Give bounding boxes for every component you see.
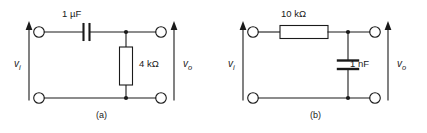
- circuit-b: 10 kΩ 1 nF vi vo (b): [214, 0, 427, 133]
- terminal-top-left-b: [248, 27, 259, 38]
- output-voltage-arrow-b: [385, 21, 392, 100]
- terminal-bottom-right-a: [156, 93, 167, 104]
- caption-b: (b): [310, 110, 321, 120]
- resistor-value-label-a: 4 kΩ: [139, 59, 159, 69]
- caption-a: (a): [96, 110, 107, 120]
- input-voltage-arrow-b: [240, 21, 247, 100]
- terminal-bottom-left-b: [248, 93, 259, 104]
- junction-dot-top-a: [124, 30, 128, 34]
- input-voltage-label-b: vi: [228, 59, 235, 73]
- junction-dot-bottom-a: [124, 96, 128, 100]
- output-voltage-arrow-a: [171, 21, 178, 100]
- terminal-bottom-left-a: [34, 93, 45, 104]
- output-voltage-subscript-a: o: [188, 63, 192, 72]
- capacitor-value-label-b: 1 nF: [350, 59, 369, 69]
- resistor-value-label-b: 10 kΩ: [281, 9, 306, 19]
- input-voltage-subscript-b: i: [233, 63, 235, 72]
- capacitor-value-label-a: 1 µF: [62, 9, 81, 19]
- two-rc-circuit-figure: 1 µF 4 kΩ vi vo (a): [0, 0, 427, 133]
- circuit-a: 1 µF 4 kΩ vi vo (a): [0, 0, 213, 133]
- terminal-top-right-a: [156, 27, 167, 38]
- terminal-bottom-right-b: [370, 93, 381, 104]
- capacitor-symbol-a: [84, 24, 90, 40]
- input-voltage-label-a: vi: [14, 59, 21, 73]
- junction-dot-top-b: [346, 30, 350, 34]
- resistor-symbol-a: [120, 47, 133, 85]
- junction-dot-bottom-b: [346, 96, 350, 100]
- terminal-top-left-a: [34, 27, 45, 38]
- output-voltage-label-b: vo: [397, 59, 406, 73]
- input-voltage-subscript-a: i: [19, 63, 21, 72]
- terminal-top-right-b: [370, 27, 381, 38]
- output-voltage-label-a: vo: [183, 59, 192, 73]
- output-voltage-subscript-b: o: [402, 63, 406, 72]
- input-voltage-arrow-a: [26, 21, 33, 100]
- resistor-symbol-b: [280, 26, 328, 39]
